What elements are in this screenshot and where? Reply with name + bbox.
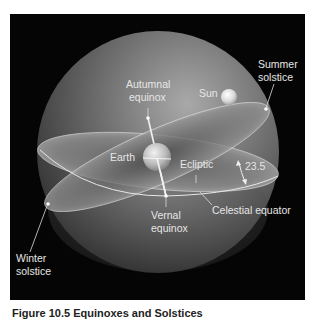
winter-solstice-label-line2: solstice — [16, 265, 51, 277]
vernal-equinox-label-line1: Vernal — [151, 209, 181, 221]
sun — [221, 89, 237, 105]
autumnal-equinox-label-line1: Autumnal — [126, 78, 170, 90]
autumnal-equinox-point — [146, 116, 150, 120]
earth — [143, 143, 171, 171]
vernal-equinox-label-line2: equinox — [151, 222, 189, 234]
figure-caption: Figure 10.5 Equinoxes and Solstices — [12, 306, 203, 320]
angle-label: 23.5 — [245, 160, 266, 172]
vernal-equinox-point — [164, 194, 168, 198]
earth-label: Earth — [110, 151, 135, 163]
figure-title: Equinoxes and Solstices — [73, 307, 203, 319]
winter-solstice-label-line1: Winter — [16, 252, 47, 264]
autumnal-equinox-label-line2: equinox — [129, 91, 167, 103]
sun-label: Sun — [199, 87, 218, 99]
winter-solstice-point — [46, 202, 50, 206]
celestial-equator-label: Celestial equator — [212, 204, 291, 216]
summer-solstice-label-line1: Summer — [258, 58, 298, 70]
ecliptic-label: Ecliptic — [180, 158, 213, 170]
summer-solstice-label-line2: solstice — [258, 71, 293, 83]
figure-number: Figure 10.5 — [12, 307, 70, 319]
